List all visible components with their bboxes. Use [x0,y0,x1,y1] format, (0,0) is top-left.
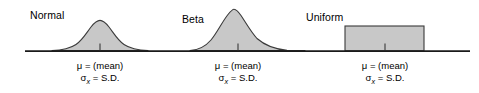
normal-distribution-label: Normal [30,9,64,21]
normal-sigma-text: σx = S.D. [55,72,145,87]
beta-parameters-caption: μ = (mean) σx = S.D. [193,60,283,87]
uniform-parameters-caption: μ = (mean) σx = S.D. [340,60,430,87]
beta-sigma-subscript: x [224,76,228,85]
beta-sigma-rest: = S.D. [231,72,258,83]
uniform-mu-text: μ = (mean) [340,60,430,72]
normal-mu-text: μ = (mean) [55,60,145,72]
normal-parameters-caption: μ = (mean) σx = S.D. [55,60,145,87]
distribution-shapes-figure: Normal Beta Uniform μ = (mean) σx = S.D.… [0,0,479,93]
uniform-sigma-text: σx = S.D. [340,72,430,87]
normal-sigma-subscript: x [86,76,90,85]
uniform-sigma-subscript: x [371,76,375,85]
beta-distribution-label: Beta [182,13,204,25]
uniform-sigma-rest: = S.D. [378,72,405,83]
normal-sigma-rest: = S.D. [93,72,120,83]
beta-mu-text: μ = (mean) [193,60,283,72]
uniform-distribution-label: Uniform [306,11,343,23]
beta-sigma-text: σx = S.D. [193,72,283,87]
beta-curve-shape [190,9,305,50]
